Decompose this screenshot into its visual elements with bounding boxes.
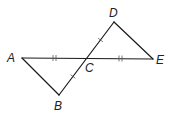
point-label-e: E xyxy=(156,53,165,67)
geometry-diagram: A B C D E xyxy=(0,0,170,117)
point-label-a: A xyxy=(6,51,15,65)
point-label-d: D xyxy=(109,6,118,20)
point-label-c: C xyxy=(85,61,94,75)
segment-de xyxy=(114,22,153,59)
point-label-b: B xyxy=(54,99,62,113)
segment-ab xyxy=(22,58,59,95)
